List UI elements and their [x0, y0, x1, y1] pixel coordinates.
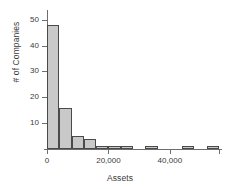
- y-axis-tick-label: 40: [30, 41, 39, 50]
- y-axis-tick-label: 50: [30, 15, 39, 24]
- histogram-bar: [182, 146, 194, 149]
- histogram-figure: # of Companies Assets 1020304050 020,000…: [0, 0, 232, 189]
- plot-area: 1020304050: [47, 12, 219, 149]
- x-axis-tick-label: 0: [45, 156, 49, 165]
- y-axis-tick: 30: [42, 71, 47, 72]
- y-axis-tick-label: 10: [30, 118, 39, 127]
- histogram-bar: [72, 136, 84, 149]
- histogram-bar: [96, 146, 108, 149]
- y-axis-tick: 40: [42, 46, 47, 47]
- histogram-bar: [108, 146, 120, 149]
- y-axis-tick: 20: [42, 97, 47, 98]
- y-axis-tick: 50: [42, 20, 47, 21]
- y-axis-tick-label: 30: [30, 66, 39, 75]
- x-axis-end-tick: [219, 149, 220, 154]
- x-axis-line: [44, 149, 222, 150]
- y-axis-tick: 10: [42, 123, 47, 124]
- x-axis-tick-label: 40,000: [158, 156, 182, 165]
- histogram-bar: [59, 108, 71, 149]
- x-axis-tick: [108, 149, 109, 154]
- histogram-bar: [84, 139, 96, 149]
- histogram-bar: [121, 146, 133, 149]
- histogram-bar: [47, 25, 59, 149]
- x-axis-title: Assets: [44, 173, 196, 183]
- x-axis-tick-label: 20,000: [96, 156, 120, 165]
- histogram-bar: [145, 146, 157, 149]
- y-axis-title: # of Companies: [11, 4, 21, 100]
- x-axis-tick: [170, 149, 171, 154]
- y-axis-tick-label: 20: [30, 92, 39, 101]
- x-axis-tick: [47, 149, 48, 154]
- histogram-bar: [207, 146, 219, 149]
